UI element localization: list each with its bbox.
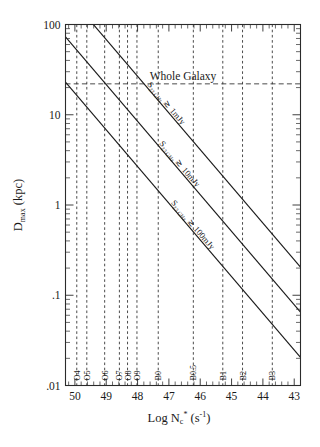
spectral-type-label-B3: B3 xyxy=(268,371,277,381)
x-tick-label: 49 xyxy=(100,390,112,402)
x-tick-label: 48 xyxy=(132,390,144,402)
spectral-type-label-O6: O6 xyxy=(101,370,110,380)
spectral-type-label-O9: O9 xyxy=(133,370,142,380)
x-tick-label: 50 xyxy=(69,390,81,402)
detection-limit-line-0 xyxy=(66,0,301,267)
y-tick-label: 100 xyxy=(43,19,61,31)
spectral-type-label-O8: O8 xyxy=(124,370,133,380)
chart-text-labels: 5049484746454443100101.1.01Log Nc* (s-1)… xyxy=(11,19,300,427)
detection-limit-lines xyxy=(66,0,301,357)
dmax-vs-lognc-plot: 5049484746454443100101.1.01Log Nc* (s-1)… xyxy=(0,0,320,447)
x-tick-label: 45 xyxy=(226,390,238,402)
y-axis-title: Dmax (kpc) xyxy=(11,179,27,231)
x-tick-label: 43 xyxy=(288,390,300,402)
spectral-type-label-B2: B2 xyxy=(239,371,248,381)
y-tick-label: .01 xyxy=(46,380,61,392)
series-label-0: S23 GHz ≳ 1mJy xyxy=(145,80,188,128)
spectral-type-label-O5: O5 xyxy=(83,370,92,380)
x-tick-label: 44 xyxy=(257,390,269,402)
chart-figure: 5049484746454443100101.1.01Log Nc* (s-1)… xyxy=(0,0,320,447)
y-tick-label: 10 xyxy=(49,109,61,121)
x-tick-label: 46 xyxy=(194,390,206,402)
x-axis-title: Log Nc* (s-1) xyxy=(148,410,211,426)
whole-galaxy-label: Whole Galaxy xyxy=(150,70,217,83)
y-tick-label: .1 xyxy=(52,289,61,301)
spectral-type-label-B0-5: B0.5 xyxy=(189,365,198,381)
x-tick-label: 47 xyxy=(163,390,175,402)
series-label-1: S23 GHz ≳ 10mJy xyxy=(157,139,203,190)
spectral-type-label-B1: B1 xyxy=(219,371,228,381)
y-tick-label: 1 xyxy=(55,199,61,211)
spectral-type-label-B0: B0 xyxy=(154,371,163,381)
spectral-type-label-O4: O4 xyxy=(73,370,82,380)
